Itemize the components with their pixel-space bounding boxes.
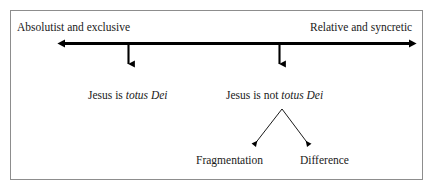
axis-right-pole-label: Relative and syncretic (310, 20, 412, 34)
branch-label-fragmentation: Fragmentation (196, 153, 263, 167)
node-label-totus-dei: Jesus is totus Dei (88, 88, 168, 102)
node-label-not-totus-dei: Jesus is not totus Dei (226, 88, 323, 102)
node-label-not-totus-dei-italic: totus Dei (281, 89, 323, 101)
node-label-totus-dei-italic: totus Dei (126, 89, 168, 101)
node-label-not-totus-dei-plain: Jesus is not (226, 89, 281, 101)
diagram-canvas: Absolutist and exclusive Relative and sy… (0, 0, 435, 192)
axis-left-pole-label: Absolutist and exclusive (17, 20, 130, 34)
node-label-totus-dei-plain: Jesus is (88, 89, 126, 101)
branch-label-difference: Difference (300, 153, 349, 167)
